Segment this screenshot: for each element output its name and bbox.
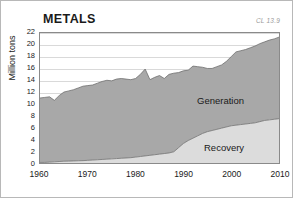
y-axis-tick: 20 [5, 40, 35, 48]
y-axis-tick: 0 [5, 160, 35, 168]
metals-area-chart-figure: METALS CL 13.9 Million tons 222018161412… [0, 0, 293, 198]
y-axis-tick: 10 [5, 100, 35, 108]
page-title: METALS [43, 12, 96, 26]
series-label-recovery: Recovery [204, 142, 244, 153]
series-label-generation: Generation [197, 95, 244, 106]
y-axis-tick: 14 [5, 76, 35, 84]
y-axis-tick: 18 [5, 52, 35, 60]
plate-reference-label: CL 13.9 [256, 17, 280, 24]
x-axis-tick: 2000 [212, 169, 252, 179]
y-axis-tick: 22 [5, 28, 35, 36]
y-axis-tick: 12 [5, 88, 35, 96]
x-axis-tick: 1980 [115, 169, 155, 179]
x-axis-tick: 1970 [67, 169, 107, 179]
x-axis-tick: 1960 [19, 169, 59, 179]
y-axis-tick: 16 [5, 64, 35, 72]
x-axis-tick: 2010 [260, 169, 293, 179]
y-axis-tick: 4 [5, 136, 35, 144]
y-axis-tick: 8 [5, 112, 35, 120]
y-axis-tick: 6 [5, 124, 35, 132]
y-axis-tick: 2 [5, 148, 35, 156]
x-axis-tick: 1990 [164, 169, 204, 179]
